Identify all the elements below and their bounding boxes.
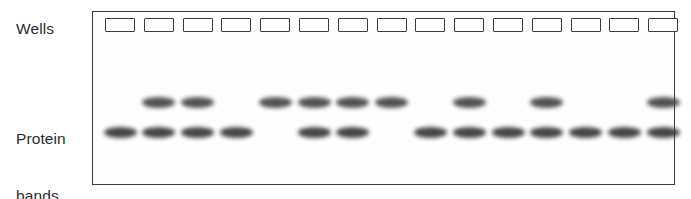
protein-band-lane-10-upper [453,97,486,108]
protein-band-lane-14-lower [608,127,641,138]
protein-band-lane-6-upper [298,97,331,108]
protein-band-lane-9-lower [414,127,447,138]
protein-band-lane-6-lower [298,127,331,138]
wells-label: Wells [16,19,54,38]
protein-band-lane-3-lower [181,127,214,138]
protein-band-lane-11-lower [492,127,525,138]
protein-bands-label-line1: Protein [16,129,66,148]
well-lane-6 [299,18,329,32]
protein-band-lane-3-upper [181,97,214,108]
protein-band-lane-4-lower [220,127,253,138]
protein-band-lane-15-lower [647,127,680,138]
protein-band-lane-8-upper [375,97,408,108]
protein-band-lane-1-lower [104,127,137,138]
well-lane-7 [338,18,368,32]
well-lane-13 [571,18,601,32]
well-lane-12 [532,18,562,32]
protein-bands-label: Protein bands [16,91,66,199]
well-lane-3 [183,18,213,32]
well-lane-8 [377,18,407,32]
protein-band-lane-10-lower [453,127,486,138]
protein-band-lane-13-lower [569,127,602,138]
gel-electrophoresis-figure: Wells Protein bands [0,0,691,199]
well-lane-11 [493,18,523,32]
well-lane-10 [454,18,484,32]
well-lane-9 [415,18,445,32]
well-lane-1 [105,18,135,32]
well-lane-14 [609,18,639,32]
protein-band-lane-15-upper [647,97,680,108]
protein-band-lane-5-upper [259,97,292,108]
well-lane-5 [260,18,290,32]
well-lane-2 [144,18,174,32]
protein-bands-label-line2: bands [16,186,66,199]
well-lane-15 [648,18,678,32]
well-lane-4 [221,18,251,32]
